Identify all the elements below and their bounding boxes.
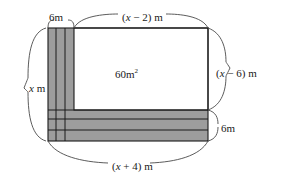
label-top-width: (x − 2) m bbox=[122, 11, 163, 23]
label-left-height: x m bbox=[29, 82, 45, 94]
brace-left-height bbox=[24, 28, 46, 88]
brace-band-height-lower bbox=[208, 127, 218, 141]
label-inner-area-exponent: 2 bbox=[135, 67, 139, 75]
label-right-height: (x − 6) m bbox=[216, 67, 257, 79]
left-vertical-shaded-strip bbox=[48, 28, 74, 141]
label-right-height-rest: − 6) m bbox=[225, 67, 257, 79]
label-inner-area: 60m2 bbox=[115, 68, 138, 80]
label-left-height-unit: m bbox=[34, 82, 45, 94]
bottom-horizontal-shaded-band bbox=[74, 110, 208, 141]
label-inner-area-value: 60m bbox=[115, 68, 135, 80]
label-bottom-width: (x + 4) m bbox=[112, 160, 153, 172]
geometry-figure: 6m (x − 2) m x m 60m2 (x − 6) m 6m (x + … bbox=[0, 0, 294, 187]
label-top-width-rest: − 2) m bbox=[131, 11, 163, 23]
label-band-height: 6m bbox=[221, 122, 235, 134]
brace-top-width-right bbox=[166, 14, 208, 28]
brace-strip-width-right bbox=[68, 20, 74, 28]
brace-bottom-width-right bbox=[150, 141, 208, 163]
label-bottom-width-rest: + 4) m bbox=[121, 160, 153, 172]
brace-bottom-width bbox=[48, 141, 108, 163]
label-strip-width: 6m bbox=[49, 11, 63, 23]
brace-band-height bbox=[208, 110, 218, 124]
inner-area-rectangle bbox=[74, 28, 208, 110]
brace-top-width bbox=[74, 14, 118, 28]
brace-right-height bbox=[208, 28, 230, 68]
brace-left-height-lower bbox=[24, 88, 46, 141]
